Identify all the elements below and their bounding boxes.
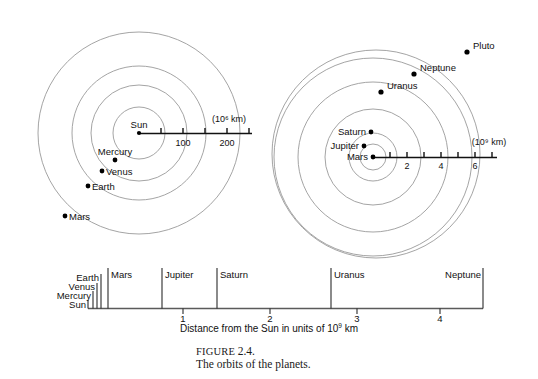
outer-scale-label-6: 6 bbox=[472, 161, 477, 171]
axis-caption-prefix: Distance from the Sun in units of 10 bbox=[180, 323, 338, 334]
dot-mercury bbox=[113, 158, 118, 163]
dot-neptune bbox=[411, 71, 416, 76]
outer-unit-label: (10⁹ km) bbox=[472, 137, 506, 147]
bottom-label-saturn: Saturn bbox=[220, 269, 248, 280]
bottom-axis-caption: Distance from the Sun in units of 109 km bbox=[0, 322, 538, 334]
bottom-label-mars: Mars bbox=[111, 269, 132, 280]
panel-outer-solar-system: 2 4 6 (10⁹ km) Mars Jupiter Saturn Uranu… bbox=[272, 40, 506, 258]
label-earth: Earth bbox=[92, 181, 115, 192]
dot-pluto bbox=[464, 49, 469, 54]
label-jupiter: Jupiter bbox=[330, 140, 359, 151]
label-mars-inner: Mars bbox=[69, 211, 90, 222]
bottom-label-neptune: Neptune bbox=[445, 269, 481, 280]
dot-earth bbox=[86, 184, 91, 189]
inner-unit-label: (10⁶ km) bbox=[212, 114, 246, 124]
outer-scale-label-2: 2 bbox=[404, 161, 409, 171]
dot-saturn bbox=[369, 130, 374, 135]
panel-inner-solar-system: 100 200 (10⁶ km) Sun Mercury Venus Earth… bbox=[38, 32, 252, 234]
dot-venus bbox=[100, 169, 105, 174]
label-saturn: Saturn bbox=[338, 126, 366, 137]
label-pluto: Pluto bbox=[473, 40, 495, 51]
label-neptune: Neptune bbox=[420, 62, 456, 73]
label-mars-outer: Mars bbox=[347, 151, 368, 162]
figure-orbits-of-the-planets: 100 200 (10⁶ km) Sun Mercury Venus Earth… bbox=[0, 0, 538, 379]
bottom-label-earth: Earth bbox=[76, 272, 99, 283]
inner-scale-label-100: 100 bbox=[175, 138, 190, 148]
label-venus: Venus bbox=[106, 166, 133, 177]
figure-caption: FIGURE 2.4. The orbits of the planets. bbox=[196, 345, 311, 371]
inner-scale-label-200: 200 bbox=[219, 138, 234, 148]
bottom-label-uranus: Uranus bbox=[334, 269, 365, 280]
dot-mars-inner bbox=[63, 214, 68, 219]
dot-sun bbox=[137, 131, 141, 135]
outer-scale-label-4: 4 bbox=[438, 161, 443, 171]
label-sun: Sun bbox=[131, 119, 148, 130]
figure-caption-number: 2.4. bbox=[238, 345, 255, 357]
figure-caption-title: The orbits of the planets. bbox=[196, 358, 311, 371]
bottom-distance-scale: 1 2 3 4 Sun Mercury Venus Earth Mars Jup… bbox=[57, 268, 483, 324]
dot-jupiter bbox=[362, 144, 367, 149]
label-mercury: Mercury bbox=[98, 146, 133, 157]
figure-caption-label: FIGURE bbox=[196, 346, 235, 357]
label-uranus: Uranus bbox=[387, 80, 418, 91]
axis-caption-suffix: km bbox=[342, 323, 358, 334]
bottom-label-jupiter: Jupiter bbox=[165, 269, 194, 280]
dot-mars-outer bbox=[371, 155, 376, 160]
dot-uranus bbox=[378, 89, 383, 94]
